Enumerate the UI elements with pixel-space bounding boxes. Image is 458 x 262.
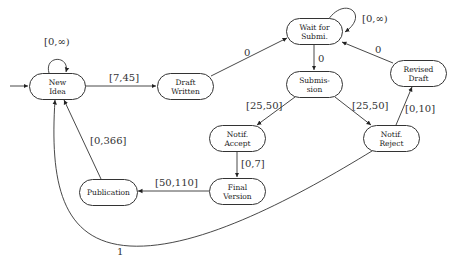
label-publication-new-idea: [0,366]	[90, 135, 126, 146]
edge-new-idea-loop	[48, 59, 66, 73]
node-revised-draft: Revised Draft	[390, 60, 447, 87]
node-new-idea: New Idea	[29, 73, 86, 100]
node-notif-reject: Notif. Reject	[363, 125, 420, 152]
node-wait-for-submission: Wait for Submi.	[286, 18, 343, 45]
edge-reject-new-idea	[54, 100, 372, 246]
label-submission-reject: [25,50]	[352, 100, 388, 111]
label-wait-loop: [0,∞)	[362, 13, 388, 24]
label-accept-final: [0,7]	[241, 158, 265, 169]
node-final-version: Final Version	[209, 178, 266, 205]
node-notif-accept: Notif. Accept	[209, 125, 266, 152]
edge-revised-wait	[342, 42, 393, 63]
label-revised-wait: 0	[375, 44, 381, 55]
label-wait-submission: 0	[318, 53, 324, 64]
label-new-idea-loop: [0,∞)	[44, 36, 70, 47]
node-publication: Publication	[79, 179, 138, 206]
label-submission-accept: [25,50]	[246, 100, 282, 111]
label-reject-revised: [0,10]	[405, 103, 435, 114]
node-submission: Submis- sion	[286, 71, 343, 98]
label-final-publication: [50,110]	[155, 177, 198, 188]
node-draft-written: Draft Written	[157, 73, 214, 100]
label-draft-wait: 0	[244, 47, 250, 58]
label-new-idea-draft: [7,45]	[109, 72, 139, 83]
label-reject-new-idea: 1	[117, 246, 123, 257]
